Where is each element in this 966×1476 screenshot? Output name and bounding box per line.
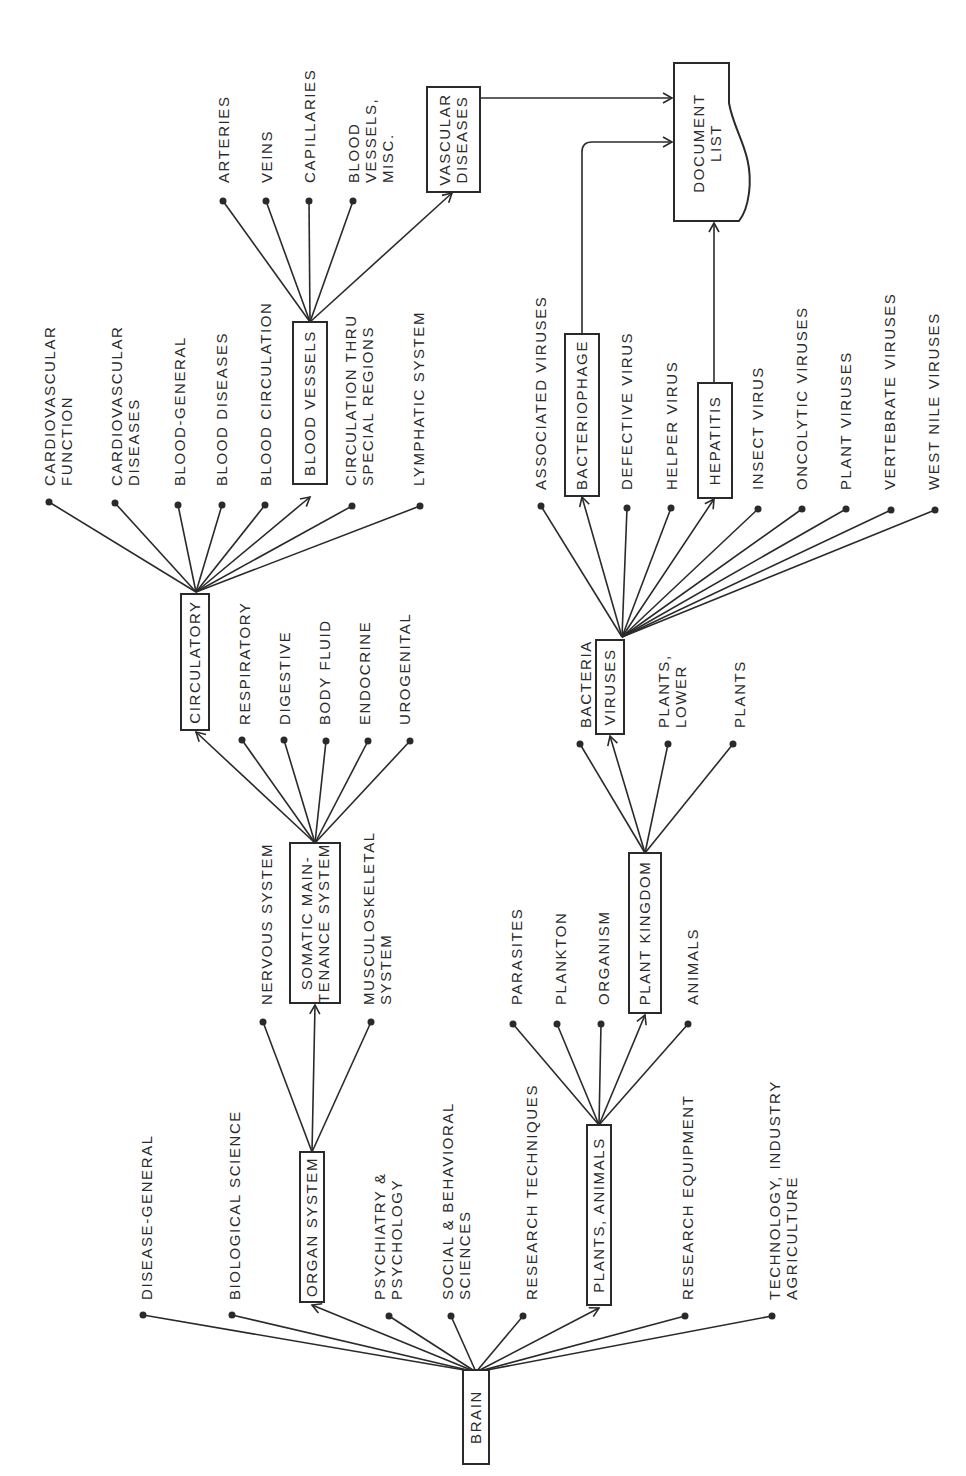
leaf-dot-icon [112, 500, 119, 507]
document-list-node: DOCUMENTLIST [674, 63, 750, 221]
leaf-labels: DISEASE-GENERALBIOLOGICAL SCIENCEPSYCHIA… [41, 69, 942, 1300]
leaf-psychiatry-psychology: PSYCHIATRY &PSYCHOLOGY [371, 1172, 405, 1300]
edge-viruses-hepatitis [622, 499, 714, 637]
leaf-blood-general: BLOOD-GENERAL [171, 336, 188, 486]
leaf-dot-icon [510, 1021, 517, 1028]
leaf-dot-icon [229, 1312, 236, 1319]
leaf-body-fluid: BODY FLUID [316, 619, 333, 725]
leaf-dot-icon [520, 1313, 527, 1320]
leaf-dot-icon [598, 1021, 605, 1028]
leaf-dot-icon [448, 1313, 455, 1320]
node-label-bacteriophage: BACTERIOPHAGE [573, 340, 590, 490]
leaf-lymphatic-system: LYMPHATIC SYSTEM [410, 311, 427, 486]
node-label-plants-animals: PLANTS, ANIMALS [590, 1137, 607, 1293]
edge-circulatory-cardiovascular [115, 503, 196, 592]
leaf-dot-icon [769, 1313, 776, 1320]
edge-brain-research-equipment [476, 1316, 685, 1372]
leaf-parasites: PARASITES [508, 908, 525, 1005]
edge-viruses-west-nile-viruses [622, 510, 935, 637]
leaf-dot-icon [368, 1019, 375, 1026]
leaf-dot-icon [407, 738, 414, 745]
leaf-blood-diseases: BLOOD DISEASES [213, 332, 230, 486]
node-box-brain: BRAIN [463, 1370, 489, 1464]
edge-viruses-insect-virus [622, 509, 758, 637]
node-label-somatic: SOMATIC MAIN-TENANCE SYSTEM [298, 843, 332, 1003]
leaf-dot-icon [220, 198, 227, 205]
node-box-plant-kingdom: PLANT KINGDOM [629, 853, 661, 1013]
leaf-dot-icon [668, 505, 675, 512]
leaf-dot-icon [140, 1312, 147, 1319]
edge-organ-system-musculoskeletal [312, 1022, 371, 1152]
node-label-organ-system: ORGAN SYSTEM [303, 1157, 320, 1297]
leaf-dot-icon [417, 503, 424, 510]
leaf-blood-vessels-misc: BLOODVESSELS,MISC. [345, 98, 396, 183]
edge-viruses-defective-virus [622, 508, 627, 637]
leaf-urogenital: UROGENITAL [396, 613, 413, 725]
edge-plant-kingdom-bacteria [580, 744, 645, 853]
edge-viruses-associated-viruses [541, 506, 622, 637]
edge-brain-plants-animals [476, 1308, 599, 1372]
leaf-social-behavioral-sciences: SOCIAL & BEHAVIORALSCIENCES [439, 1102, 473, 1300]
leaf-dot-icon [685, 1021, 692, 1028]
leaf-dot-icon [306, 198, 313, 205]
edge-circulatory-blood-general [178, 505, 196, 592]
node-box-organ-system: ORGAN SYSTEM [300, 1152, 324, 1302]
leaf-dot-icon [932, 507, 939, 514]
leaf-dot-icon [888, 507, 895, 514]
edge-blood-vessels-blood [310, 201, 353, 322]
leaf-research-equipment: RESEARCH EQUIPMENT [679, 1095, 696, 1301]
edge-plant-kingdom-viruses [610, 736, 645, 853]
leaf-helper-virus: HELPER VIRUS [663, 361, 680, 490]
leaf-plankton: PLANKTON [552, 912, 569, 1005]
edge-plants-animals-animals [599, 1024, 688, 1125]
node-box-plants-animals: PLANTS, ANIMALS [587, 1125, 611, 1305]
edge-circulatory-blood-vessels [196, 497, 310, 592]
leaf-dot-icon [665, 741, 672, 748]
node-box-vascular-diseases: VASCULARDISEASES [427, 87, 480, 192]
node-box-circulatory: CIRCULATORY [181, 594, 209, 730]
leaf-dot-icon [323, 738, 330, 745]
leaf-disease-general: DISEASE-GENERAL [138, 1134, 155, 1300]
edge-plants-animals-plant-kingdom [599, 1015, 645, 1125]
node-label-brain: BRAIN [467, 1390, 484, 1444]
leaf-dot-icon [281, 737, 288, 744]
leaf-dot-icon [799, 506, 806, 513]
leaf-defective-virus: DEFECTIVE VIRUS [618, 332, 635, 490]
leaf-dot-icon [386, 1313, 393, 1320]
leaf-nervous-system: NERVOUS SYSTEM [258, 843, 275, 1005]
leaf-dot-icon [365, 738, 372, 745]
node-box-hepatitis: HEPATITIS [698, 383, 732, 498]
edge-viruses-oncolytic-viruses [622, 509, 802, 637]
leaf-dot-icon [730, 741, 737, 748]
leaf-digestive: DIGESTIVE [276, 631, 293, 725]
leaf-oncolytic-viruses: ONCOLYTIC VIRUSES [793, 306, 810, 490]
leaf-veins: VEINS [258, 130, 275, 183]
leaf-cardiovascular-diseases: CARDIOVASCULARDISEASES [108, 326, 142, 486]
edge-blood-vessels-vascular-diseases [310, 193, 452, 322]
leaf-dot-icon [262, 502, 269, 509]
edge-brain-technology-industry [476, 1316, 772, 1372]
edge-plants-animals-organism [599, 1024, 601, 1125]
leaf-animals: ANIMALS [684, 928, 701, 1005]
edge-viruses-bacteriophage [582, 497, 622, 637]
edge-somatic-urogenital [315, 741, 410, 843]
leaf-arteries: ARTERIES [215, 95, 232, 183]
edge-plant-kingdom-plants [645, 744, 733, 853]
edge-organ-system-nervous-system [263, 1022, 312, 1152]
node-label-viruses: VIRUSES [601, 648, 618, 725]
leaf-blood-circulation: BLOOD CIRCULATION [257, 302, 274, 486]
leaf-dot-icon [624, 505, 631, 512]
edge-somatic-circulatory [196, 732, 315, 843]
connector-bacteriophage-to-document-list [582, 142, 672, 334]
leaf-dot-icon [538, 503, 545, 510]
leaf-research-techniques: RESEARCH TECHNIQUES [523, 1084, 540, 1300]
leaf-vertebrate-viruses: VERTEBRATE VIRUSES [881, 293, 898, 490]
edge-brain-disease-general [143, 1315, 476, 1372]
leaf-dot-icon [554, 1021, 561, 1028]
leaf-insect-virus: INSECT VIRUS [749, 366, 766, 490]
leaf-west-nile-viruses: WEST NILE VIRUSES [925, 312, 942, 490]
edge-brain-biological-science [232, 1315, 476, 1372]
leaf-organism: ORGANISM [595, 911, 612, 1005]
edge-brain-research-techniques [476, 1316, 523, 1372]
edge-organ-system-somatic [312, 1005, 315, 1152]
